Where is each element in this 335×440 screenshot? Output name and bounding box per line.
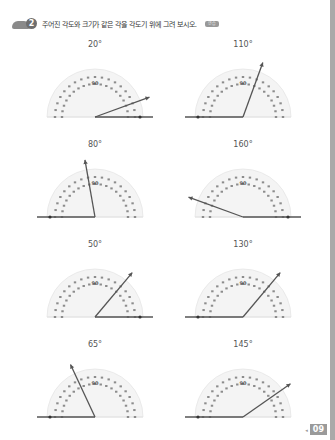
protractor-problem: 20°90 bbox=[20, 40, 170, 140]
svg-text:90: 90 bbox=[92, 80, 99, 86]
protractor[interactable]: 90 bbox=[168, 40, 318, 140]
protractor-problem: 130°90 bbox=[168, 240, 318, 340]
practice-tag: 연습 bbox=[205, 21, 219, 27]
protractor[interactable]: 90 bbox=[20, 40, 170, 140]
protractor[interactable]: 90 bbox=[168, 240, 318, 340]
instruction-text: 주어진 각도와 크기가 같은 각을 각도기 위에 그려 보시오. bbox=[42, 19, 197, 29]
page-number: ◂ 09 bbox=[305, 424, 327, 435]
protractor[interactable]: 90 bbox=[168, 340, 318, 440]
svg-text:90: 90 bbox=[92, 180, 99, 186]
svg-text:90: 90 bbox=[92, 380, 99, 386]
protractor-problem: 80°90 bbox=[20, 140, 170, 240]
protractor[interactable]: 90 bbox=[20, 340, 170, 440]
svg-text:90: 90 bbox=[240, 380, 247, 386]
protractor-problem: 50°90 bbox=[20, 240, 170, 340]
problem-header: 2 주어진 각도와 크기가 같은 각을 각도기 위에 그려 보시오. 연습 bbox=[12, 17, 219, 31]
protractor-problem: 145°90 bbox=[168, 340, 318, 440]
protractor-problem: 65°90 bbox=[20, 340, 170, 440]
protractor[interactable]: 90 bbox=[168, 140, 318, 240]
problem-number: 2 bbox=[26, 18, 37, 29]
page-number-box: 09 bbox=[310, 424, 327, 435]
protractor[interactable]: 90 bbox=[20, 240, 170, 340]
protractor[interactable]: 90 bbox=[20, 140, 170, 240]
page-marker-icon: ◂ bbox=[305, 427, 308, 433]
svg-text:90: 90 bbox=[92, 280, 99, 286]
svg-text:90: 90 bbox=[240, 180, 247, 186]
page-edge bbox=[330, 0, 335, 440]
svg-text:90: 90 bbox=[240, 80, 247, 86]
problem-number-badge: 2 bbox=[12, 18, 38, 30]
svg-text:90: 90 bbox=[240, 280, 247, 286]
protractor-problem: 160°90 bbox=[168, 140, 318, 240]
protractor-problem: 110°90 bbox=[168, 40, 318, 140]
